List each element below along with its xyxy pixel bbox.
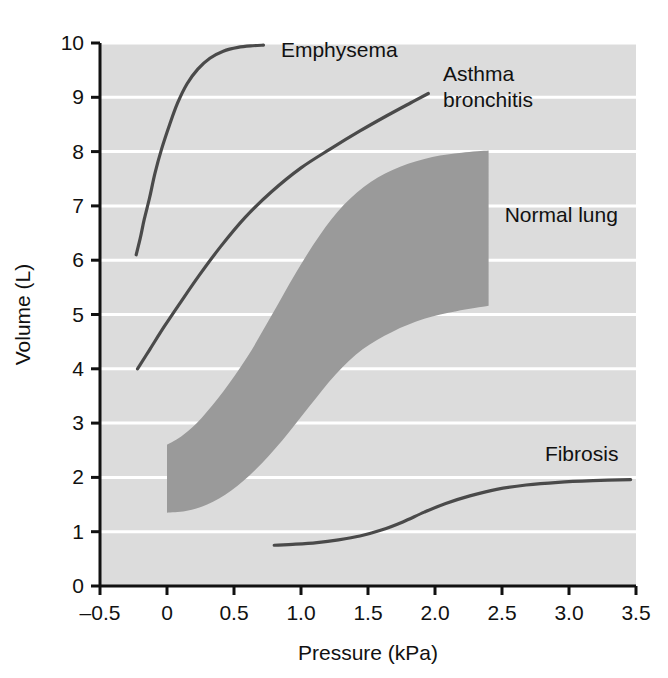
y-tick-label-7: 7	[72, 194, 84, 217]
x-tick-label-1_5: 1.5	[353, 601, 382, 624]
y-tick-label-0: 0	[72, 574, 84, 597]
x-tick-label-0: 0	[161, 601, 173, 624]
y-tick-label-4: 4	[72, 357, 84, 380]
chart-container: 012345678910–0.500.51.01.52.02.53.03.5 E…	[0, 0, 668, 678]
x-tick-label-1: 1.0	[286, 601, 315, 624]
lung-compliance-chart: 012345678910–0.500.51.01.52.02.53.03.5 E…	[0, 0, 668, 678]
x-tick-label-2_5: 2.5	[487, 601, 516, 624]
y-axis-title: Volume (L)	[11, 264, 34, 366]
x-tick-label-neg0_5: –0.5	[80, 601, 121, 624]
y-tick-label-6: 6	[72, 248, 84, 271]
y-tick-label-2: 2	[72, 465, 84, 488]
x-tick-label-3: 3.0	[554, 601, 583, 624]
x-tick-label-0_5: 0.5	[219, 601, 248, 624]
series-label-emphysema: Emphysema	[281, 38, 398, 61]
x-tick-label-3_5: 3.5	[621, 601, 650, 624]
y-tick-label-1: 1	[72, 520, 84, 543]
y-tick-label-10: 10	[61, 31, 84, 54]
y-tick-label-3: 3	[72, 411, 84, 434]
y-tick-label-9: 9	[72, 85, 84, 108]
x-tick-label-2: 2.0	[420, 601, 449, 624]
series-label-asthma-bronchitis: Asthma	[443, 62, 515, 85]
series-label-asthma-bronchitis-line2: bronchitis	[443, 88, 533, 111]
y-tick-label-8: 8	[72, 140, 84, 163]
x-axis-title: Pressure (kPa)	[298, 641, 438, 664]
series-label-fibrosis: Fibrosis	[545, 442, 619, 465]
series-label-normal-lung: Normal lung	[505, 203, 618, 226]
y-tick-label-5: 5	[72, 303, 84, 326]
